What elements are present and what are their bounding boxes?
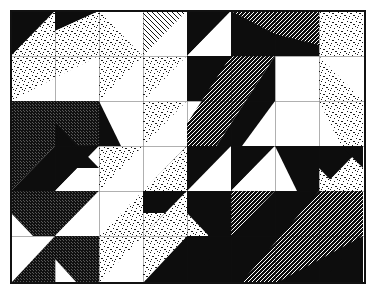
data-tri-r0c7-stipple: [319, 11, 363, 56]
data-tri-r3c6-black: [275, 146, 319, 191]
geometric-composition: [0, 0, 378, 298]
data-tri-r4c6-black: [275, 191, 319, 236]
data-tri-r4c0-crosshatch: [11, 191, 55, 236]
data-tri-r5c7-black: [319, 236, 363, 281]
artwork-canvas: [0, 0, 378, 298]
data-tri-r5c4-black: [187, 236, 231, 281]
data-tri-r5c6-hatch: [275, 236, 319, 281]
data-tri-r4c7-hatch: [319, 191, 363, 236]
data-tri-r5c1-crosshatch: [55, 236, 99, 281]
data-tri-r2c0-crosshatch: [11, 101, 55, 146]
data-tri-r5c5-black: [231, 236, 275, 281]
data-tri-r4c4-black: [187, 191, 231, 236]
data-band-r0c1-stipple: [55, 11, 99, 56]
data-tri-r2c7-stipple: [319, 101, 363, 146]
data-tri-r2c1-crosshatch: [55, 101, 99, 146]
